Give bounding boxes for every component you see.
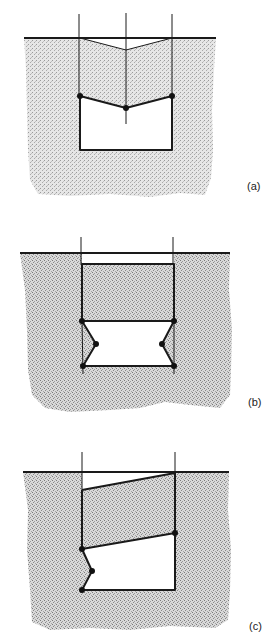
panel-b: (b)	[20, 237, 261, 412]
mechanism-figure: (a) (b)	[0, 0, 272, 638]
hinge-dot	[80, 363, 86, 369]
hinge-dot	[77, 93, 83, 99]
panel-label-c: (c)	[249, 620, 262, 632]
panel-a: (a)	[24, 13, 260, 197]
settlement-gap	[82, 253, 174, 264]
panel-label-b: (b)	[248, 396, 261, 408]
hinge-dot	[171, 318, 177, 324]
hinge-dot	[79, 318, 85, 324]
hinge-dot	[79, 587, 85, 593]
hinge-dot	[123, 105, 129, 111]
hinge-dot	[89, 568, 95, 574]
hinge-dot	[169, 93, 175, 99]
hinge-dot	[93, 341, 99, 347]
panel-label-a: (a)	[247, 180, 260, 192]
panel-c: (c)	[23, 452, 262, 632]
hinge-dot	[79, 546, 85, 552]
hinge-dot	[172, 530, 178, 536]
hinge-dot	[171, 363, 177, 369]
hinge-dot	[159, 341, 165, 347]
